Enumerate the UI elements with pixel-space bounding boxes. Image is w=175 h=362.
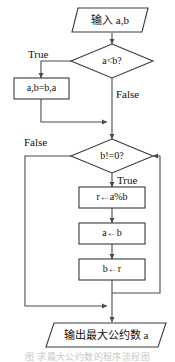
node-assign-b: b←r [79, 259, 145, 280]
node-input: 输入 a,b [72, 8, 148, 32]
node-output: 输出最大公约数 a [46, 323, 166, 347]
connector-swap-to-merge [41, 99, 107, 122]
node-assign-a: a←b [79, 223, 145, 244]
node-swap: a,b=b,a [14, 78, 69, 99]
flowchart-diagram: 输入 a,b a<b? a,b=b,a b!=0? r←a%b a←b [0, 0, 175, 362]
branch-label-cond2-false: False [24, 136, 47, 148]
branch-label-cond1-true: True [28, 48, 48, 60]
node-cond1: a<b? [71, 44, 153, 78]
output-label: 输出最大公约数 a [64, 328, 149, 341]
node-cond2: b!=0? [71, 139, 153, 173]
branch-label-cond2-true: True [117, 174, 137, 186]
mod-label: r←a%b [96, 191, 127, 202]
assign-a-label: a←b [102, 227, 121, 238]
cond1-label: a<b? [102, 55, 122, 66]
cond2-label: b!=0? [100, 150, 124, 161]
node-mod: r←a%b [79, 187, 145, 208]
swap-label: a,b=b,a [27, 82, 57, 93]
assign-b-label: b←r [103, 263, 122, 274]
figure-caption: 图 求最大公约数的程序流程图 [0, 350, 175, 362]
branch-label-cond1-false: False [116, 88, 139, 100]
input-label: 输入 a,b [91, 13, 129, 26]
connector-cond1-true-to-swap [41, 61, 74, 78]
flowchart-canvas: 输入 a,b a<b? a,b=b,a b!=0? r←a%b a←b [0, 0, 175, 362]
